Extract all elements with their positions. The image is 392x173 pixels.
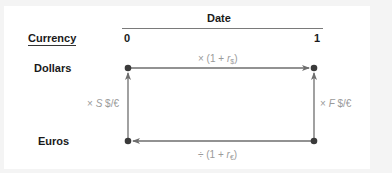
currency-flow-diagram — [0, 0, 392, 173]
node-dollars-date1 — [311, 65, 318, 72]
node-euros-date0 — [125, 138, 132, 145]
date-header-label: Date — [207, 12, 231, 24]
node-euros-date1 — [311, 138, 318, 145]
row-label-euros: Euros — [38, 135, 69, 147]
bottom-edge-label: ÷ (1 + r€) — [198, 149, 237, 161]
right-edge-label: × F $/€ — [320, 98, 351, 109]
top-edge-label: × (1 + r$) — [198, 53, 238, 65]
currency-header-label: Currency — [28, 32, 76, 46]
left-edge-label: × S $/€ — [87, 98, 119, 109]
date-column-0: 0 — [124, 32, 130, 44]
row-label-dollars: Dollars — [34, 62, 71, 74]
date-column-1: 1 — [314, 32, 320, 44]
node-dollars-date0 — [125, 65, 132, 72]
